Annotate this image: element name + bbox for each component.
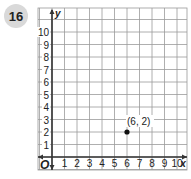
x-tick-label: 8: [149, 158, 155, 169]
data-point: [124, 129, 129, 134]
y-tick-label: 5: [43, 90, 49, 101]
y-tick-label: 3: [43, 115, 49, 126]
coordinate-plane: 1234567891012345678910xyO(6, 2): [0, 0, 191, 179]
y-tick-label: 4: [43, 102, 49, 113]
x-tick-label: 4: [99, 158, 105, 169]
x-tick-label: 5: [112, 158, 118, 169]
x-tick-label: 3: [87, 158, 93, 169]
y-tick-label: 2: [43, 127, 49, 138]
y-axis-label: y: [54, 8, 61, 19]
y-tick-label: 7: [43, 65, 49, 76]
y-tick-label: 8: [43, 52, 49, 63]
origin-label: O: [40, 158, 50, 172]
y-tick-label: 6: [43, 77, 49, 88]
y-tick-label: 10: [38, 27, 50, 38]
x-tick-label: 2: [74, 158, 80, 169]
x-tick-label: 1: [62, 158, 68, 169]
x-tick-label: 7: [137, 158, 143, 169]
y-tick-label: 1: [43, 140, 49, 151]
x-tick-label: 9: [162, 158, 168, 169]
point-label: (6, 2): [127, 116, 150, 127]
x-tick-label: 6: [124, 158, 130, 169]
y-tick-label: 9: [43, 40, 49, 51]
x-axis-label: x: [179, 158, 186, 169]
